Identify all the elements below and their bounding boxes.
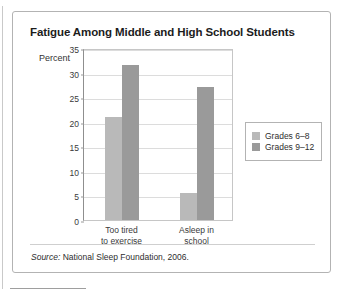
y-axis-tick-label: 30 [70, 70, 79, 80]
y-axis-title: Percent [39, 53, 70, 63]
y-axis-tickmark [81, 222, 84, 223]
y-axis-tick-label: 0 [74, 217, 79, 227]
y-axis-tick-label: 25 [70, 94, 79, 104]
figure-container: Fatigue Among Middle and High School Stu… [12, 11, 331, 273]
y-axis-tickmark [81, 197, 84, 198]
source-label: Source: [31, 252, 60, 262]
y-axis-tick-label: 10 [70, 168, 79, 178]
legend-label-grades-6-8: Grades 6–8 [265, 131, 309, 141]
legend-item: Grades 6–8 [252, 131, 314, 141]
legend-swatch-grades-6-8 [252, 132, 260, 140]
legend-item: Grades 9–12 [252, 142, 314, 152]
x-axis-tick-label-line: school [179, 236, 214, 247]
bar [105, 117, 122, 220]
x-axis-tick-label-line: to exercise [101, 236, 142, 247]
y-axis-tickmark [81, 172, 84, 173]
chart-legend: Grades 6–8 Grades 9–12 [245, 122, 322, 161]
bar [122, 65, 139, 220]
page-left-rule [2, 6, 3, 289]
source-divider [30, 244, 315, 245]
y-axis-tickmark [81, 50, 84, 51]
y-axis-tick-label: 5 [74, 192, 79, 202]
y-axis-tick-label: 15 [70, 143, 79, 153]
y-axis-tick-label: 35 [70, 45, 79, 55]
gridline [84, 50, 232, 51]
bar [180, 193, 197, 220]
gridline [84, 75, 232, 76]
y-axis-tickmark [81, 99, 84, 100]
legend-label-grades-9-12: Grades 9–12 [265, 142, 314, 152]
y-axis-tickmark [81, 74, 84, 75]
bar [197, 87, 214, 220]
x-axis-tick-label-line: Too tired [101, 225, 142, 236]
source-note: Source: National Sleep Foundation, 2006. [31, 252, 189, 262]
x-axis-tick-label-line: Asleep in [179, 225, 214, 236]
page-bottom-rule [10, 288, 86, 289]
plot-area: 05101520253035Too tiredto exerciseAsleep… [83, 49, 233, 221]
chart-plot-wrapper: Percent 05101520253035Too tiredto exerci… [13, 12, 332, 274]
source-value: National Sleep Foundation, 2006. [60, 252, 189, 262]
y-axis-tickmark [81, 123, 84, 124]
y-axis-tickmark [81, 148, 84, 149]
y-axis-tick-label: 20 [70, 119, 79, 129]
legend-swatch-grades-9-12 [252, 143, 260, 151]
